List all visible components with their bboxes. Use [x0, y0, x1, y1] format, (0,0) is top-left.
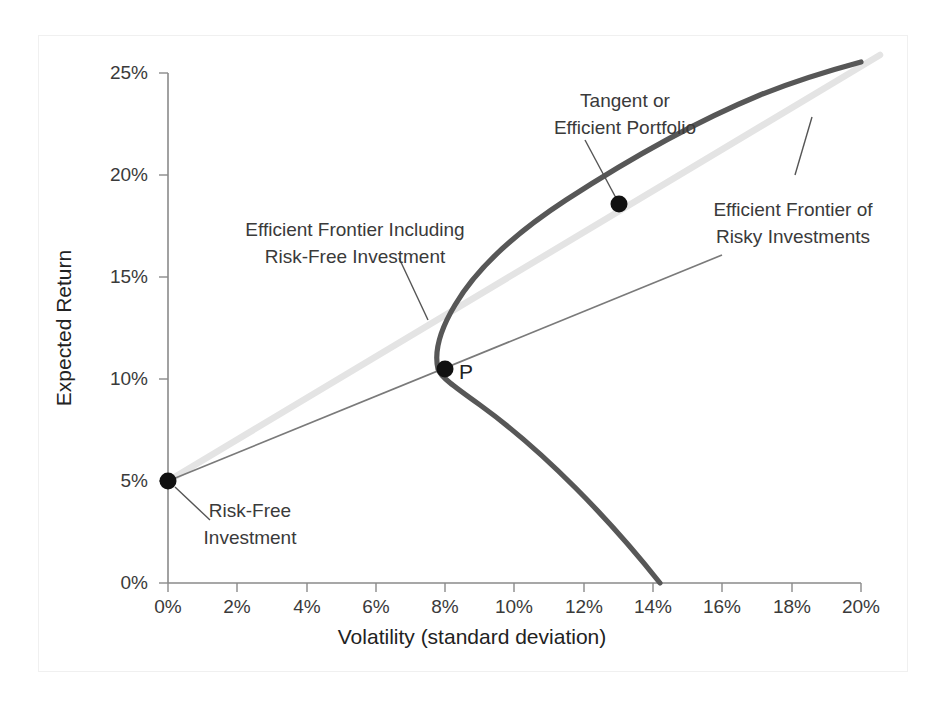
x-tick-label-8: 8% [431, 596, 458, 618]
x-tick-marks [168, 583, 861, 592]
annotation-frontier-line2: Risky Investments [713, 224, 872, 251]
x-axis-title: Volatility (standard deviation) [338, 625, 606, 649]
x-tick-label-14: 14% [634, 596, 672, 618]
x-tick-label-12: 12% [565, 596, 603, 618]
marker-portfolio-p[interactable] [437, 361, 454, 378]
x-tick-label-16: 16% [703, 596, 741, 618]
x-tick-label-20: 20% [842, 596, 880, 618]
y-tick-label-0: 0% [90, 572, 148, 594]
annotation-tangent-line1: Tangent or [554, 88, 696, 115]
y-tick-label-15: 15% [90, 266, 148, 288]
x-tick-label-2: 2% [223, 596, 250, 618]
marker-tangent-portfolio[interactable] [611, 196, 628, 213]
x-tick-label-0: 0% [154, 596, 181, 618]
annotation-efficient-frontier-risky: Efficient Frontier of Risky Investments [713, 197, 872, 251]
y-tick-label-25: 25% [90, 62, 148, 84]
annotation-including-line2: Risk-Free Investment [245, 244, 464, 271]
annotation-riskfree-line1: Risk-Free [204, 498, 297, 525]
y-tick-marks [159, 73, 168, 583]
annotation-leaders [175, 117, 812, 520]
point-label-p: P [459, 360, 473, 384]
y-axis-title: Expected Return [52, 250, 76, 406]
annotation-tangent-line2: Efficient Portfolio [554, 115, 696, 142]
annotation-including-line1: Efficient Frontier Including [245, 217, 464, 244]
x-tick-label-4: 4% [293, 596, 320, 618]
marker-risk-free-investment[interactable] [160, 473, 177, 490]
y-tick-label-20: 20% [90, 164, 148, 186]
annotation-efficient-frontier-including: Efficient Frontier Including Risk-Free I… [245, 217, 464, 271]
annotation-riskfree-line2: Investment [204, 525, 297, 552]
leader-frontier [795, 117, 812, 175]
annotation-tangent-portfolio: Tangent or Efficient Portfolio [554, 88, 696, 142]
annotation-frontier-line1: Efficient Frontier of [713, 197, 872, 224]
x-tick-label-18: 18% [773, 596, 811, 618]
x-tick-label-6: 6% [362, 596, 389, 618]
y-tick-label-10: 10% [90, 368, 148, 390]
y-tick-label-5: 5% [90, 470, 148, 492]
x-tick-label-10: 10% [495, 596, 533, 618]
annotation-risk-free-investment: Risk-Free Investment [204, 498, 297, 552]
